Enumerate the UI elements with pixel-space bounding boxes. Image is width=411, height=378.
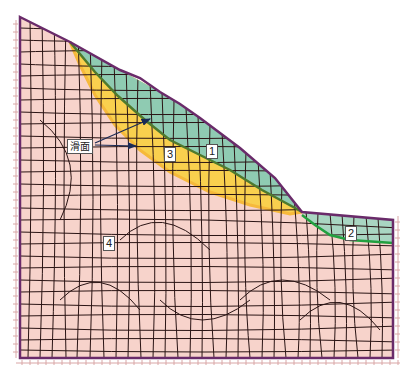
right-boundary-supports <box>395 216 400 358</box>
slope-mesh-diagram <box>0 0 411 378</box>
sliding-surface-label: 滑面 <box>67 139 93 154</box>
layer-1-label: 1 <box>206 144 218 159</box>
left-boundary-supports <box>13 20 18 358</box>
layer-3-label: 3 <box>164 147 176 162</box>
layer-4-label: 4 <box>103 236 115 251</box>
bottom-boundary-supports <box>16 360 400 365</box>
layer-2-label: 2 <box>345 226 357 241</box>
